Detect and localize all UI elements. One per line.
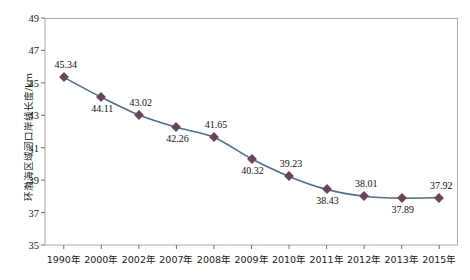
plot-lines-layer xyxy=(0,0,470,280)
data-point-value-label: 41.65 xyxy=(205,119,228,130)
data-point-value-label: 37.92 xyxy=(430,180,453,191)
data-point-value-label: 40.32 xyxy=(241,165,264,176)
data-series-line xyxy=(64,77,439,198)
data-point-value-label: 44.11 xyxy=(91,103,113,114)
data-point-value-label: 43.02 xyxy=(130,97,153,108)
data-point-value-label: 38.43 xyxy=(316,195,339,206)
data-point-value-label: 37.89 xyxy=(391,204,414,215)
data-point-value-label: 38.01 xyxy=(355,178,378,189)
data-point-value-label: 42.26 xyxy=(166,133,189,144)
data-point-value-label: 45.34 xyxy=(55,59,78,70)
line-chart: 环渤海区域河口岸线长度/km 3537394143454749 1990年200… xyxy=(0,0,470,280)
data-point-value-label: 39.23 xyxy=(280,158,303,169)
